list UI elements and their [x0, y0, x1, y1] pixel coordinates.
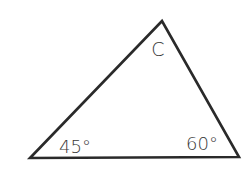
apex-angle-label: C [151, 38, 164, 60]
bottom-right-angle-label: 60° [186, 133, 218, 154]
triangle-diagram: C 45° 60° [0, 0, 248, 181]
bottom-left-angle-label: 45° [59, 136, 91, 157]
